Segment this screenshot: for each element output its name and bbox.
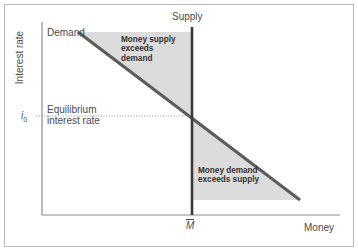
supply-curve-label: Supply bbox=[172, 11, 203, 22]
equilibrium-annotation-line2: interest rate bbox=[47, 115, 100, 126]
excess-demand-annotation: Money demand exceeds supply bbox=[198, 166, 259, 185]
money-stock-tick-letter: M bbox=[186, 219, 194, 231]
money-market-diagram: Interest rate Demand Supply Money M i0 E… bbox=[0, 0, 358, 251]
excess-supply-annotation: Money supply exceeds demand bbox=[121, 35, 176, 63]
equilibrium-tick-label: i0 bbox=[21, 110, 27, 125]
y-axis-title: Interest rate bbox=[14, 20, 25, 96]
equilibrium-tick-subscript: 0 bbox=[23, 116, 27, 123]
x-axis-title: Money bbox=[304, 222, 334, 233]
demand-curve-label: Demand bbox=[47, 27, 85, 38]
equilibrium-annotation: Equilibriuminterest rate bbox=[47, 104, 100, 126]
equilibrium-annotation-line1: Equilibrium bbox=[47, 104, 96, 115]
money-stock-tick-label: M bbox=[186, 219, 194, 231]
